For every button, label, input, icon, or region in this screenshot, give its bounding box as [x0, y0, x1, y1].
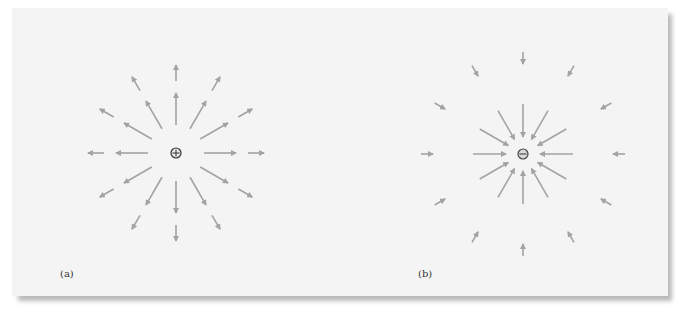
- inner-field-arrow-icon: [532, 111, 549, 140]
- inner-field-arrow-icon: [124, 123, 152, 139]
- inner-field-arrow-icon: [538, 129, 567, 146]
- outer-field-arrow-icon: [100, 109, 114, 117]
- inner-field-arrow-icon: [498, 169, 515, 198]
- inner-field-arrow-icon: [538, 163, 567, 180]
- inner-field-arrow-icon: [124, 167, 152, 183]
- outer-field-arrow-icon: [212, 77, 220, 91]
- outer-field-arrow-icon: [435, 103, 445, 109]
- inner-field-arrow-icon: [480, 129, 509, 146]
- outer-field-arrow-icon: [568, 66, 574, 76]
- inner-field-arrow-icon: [190, 177, 206, 205]
- inner-field-arrow-icon: [146, 101, 162, 129]
- inner-field-arrow-icon: [532, 169, 549, 198]
- inner-field-arrow-icon: [146, 177, 162, 205]
- outer-field-arrow-icon: [132, 215, 140, 229]
- inner-field-arrow-icon: [200, 123, 228, 139]
- field-lines-diagram: [0, 0, 689, 319]
- outer-field-arrow-icon: [132, 77, 140, 91]
- outer-field-arrow-icon: [568, 232, 574, 242]
- outer-field-arrow-icon: [472, 66, 478, 76]
- positive-charge-icon: [171, 148, 181, 158]
- inner-field-arrow-icon: [498, 111, 515, 140]
- inner-field-arrow-icon: [190, 101, 206, 129]
- outer-field-arrow-icon: [435, 199, 445, 205]
- outer-field-arrow-icon: [601, 199, 611, 205]
- outer-field-arrow-icon: [472, 232, 478, 242]
- outer-field-arrow-icon: [601, 103, 611, 109]
- outer-field-arrow-icon: [238, 189, 252, 197]
- panel-label-b: (b): [418, 268, 432, 279]
- outer-field-arrow-icon: [238, 109, 252, 117]
- outer-field-arrow-icon: [100, 189, 114, 197]
- panel-label-a: (a): [60, 268, 74, 279]
- negative-charge-icon: [518, 149, 528, 159]
- inner-field-arrow-icon: [200, 167, 228, 183]
- outer-field-arrow-icon: [212, 215, 220, 229]
- inner-field-arrow-icon: [480, 163, 509, 180]
